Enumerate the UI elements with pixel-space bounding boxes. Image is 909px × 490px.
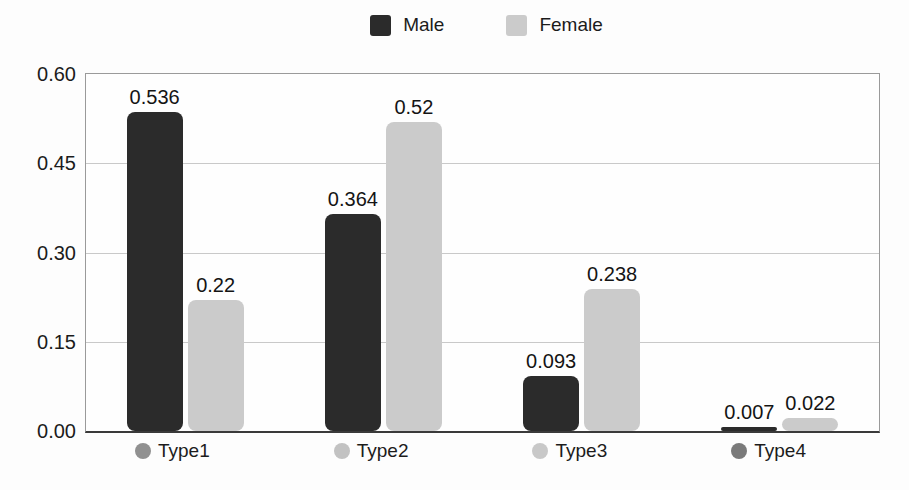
male-legend-label: Male [403, 14, 444, 36]
bar-value-label: 0.364 [328, 188, 378, 211]
bar-group-type3: 0.093 0.238 [483, 74, 681, 431]
ytick-label-0.30: 0.30 [37, 241, 76, 264]
category-label-type1: Type1 [158, 440, 210, 462]
type4-dot-icon [731, 443, 747, 459]
bar-groups: 0.536 0.22 0.364 0.52 [86, 74, 879, 431]
bar-col-type3-female: 0.238 [584, 74, 640, 431]
bar-type4-female [782, 418, 838, 431]
bar-type4-male [721, 427, 777, 431]
bar-group-type4: 0.007 0.022 [681, 74, 879, 431]
bar-col-type2-male: 0.364 [325, 74, 381, 431]
bar-group-type1: 0.536 0.22 [86, 74, 284, 431]
ytick-label-0.15: 0.15 [37, 330, 76, 353]
bar-value-label: 0.52 [394, 96, 433, 119]
category-label-type2: Type2 [357, 440, 409, 462]
ytick-label-0.00: 0.00 [37, 420, 76, 443]
bar-value-label: 0.007 [724, 401, 774, 424]
female-legend-swatch [506, 15, 527, 36]
category-label-type3: Type3 [555, 440, 607, 462]
category-type2: Type2 [272, 440, 471, 462]
bar-type1-female [188, 300, 244, 431]
female-legend-label: Female [539, 14, 602, 36]
bar-value-label: 0.022 [785, 392, 835, 415]
bar-value-label: 0.22 [196, 274, 235, 297]
legend-item-female: Female [506, 14, 602, 36]
bar-col-type3-male: 0.093 [523, 74, 579, 431]
bar-type1-male [127, 112, 183, 431]
bar-group-type2: 0.364 0.52 [284, 74, 482, 431]
type1-dot-icon [135, 443, 151, 459]
bar-type2-male [325, 214, 381, 431]
type2-dot-icon [334, 443, 350, 459]
x-axis-labels: Type1 Type2 Type3 Type4 [85, 440, 880, 462]
plot-area: 0.60 0.45 0.30 0.15 0.00 0.536 0.22 0.36… [85, 73, 880, 433]
bar-value-label: 0.536 [130, 86, 180, 109]
ytick-label-0.45: 0.45 [37, 152, 76, 175]
legend-item-male: Male [370, 14, 444, 36]
chart-legend: Male Female [32, 14, 909, 36]
bar-col-type4-male: 0.007 [721, 74, 777, 431]
bar-col-type4-female: 0.022 [782, 74, 838, 431]
bar-chart-figure: Male Female 0.60 0.45 0.30 0.15 0.00 0.5… [0, 0, 909, 490]
ytick-label-0.60: 0.60 [37, 63, 76, 86]
bar-type3-female [584, 289, 640, 431]
category-type3: Type3 [471, 440, 670, 462]
category-type4: Type4 [669, 440, 868, 462]
type3-dot-icon [532, 443, 548, 459]
bar-col-type1-male: 0.536 [127, 74, 183, 431]
bar-type2-female [386, 122, 442, 431]
male-legend-swatch [370, 15, 391, 36]
category-type1: Type1 [73, 440, 272, 462]
bar-type3-male [523, 376, 579, 431]
bar-value-label: 0.238 [587, 263, 637, 286]
bar-value-label: 0.093 [526, 350, 576, 373]
bar-col-type2-female: 0.52 [386, 74, 442, 431]
category-label-type4: Type4 [754, 440, 806, 462]
bar-col-type1-female: 0.22 [188, 74, 244, 431]
